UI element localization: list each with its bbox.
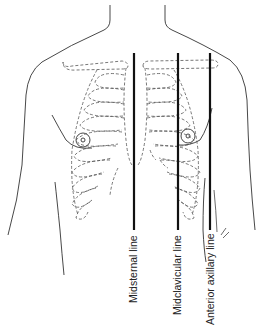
reference-lines — [134, 53, 210, 230]
anterior-axillary-label: Anterior axillary line — [205, 233, 216, 325]
midclavicular-label: Midclavicular line — [172, 235, 183, 315]
pointer-marks — [214, 190, 229, 238]
chest-reference-lines-diagram: Midsternal line Midclavicular line Anter… — [0, 0, 257, 330]
left-ribs — [72, 70, 124, 219]
midsternal-label: Midsternal line — [128, 235, 139, 303]
right-ribs — [147, 70, 200, 219]
right-nipple-icon — [181, 129, 195, 143]
